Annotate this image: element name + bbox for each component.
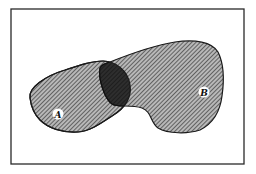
- set-b-label: B: [199, 87, 210, 98]
- venn-diagram: A B: [0, 0, 256, 174]
- set-a-label: A: [53, 109, 64, 120]
- set-b-label-text: B: [199, 88, 208, 98]
- set-a-label-text: A: [54, 110, 62, 120]
